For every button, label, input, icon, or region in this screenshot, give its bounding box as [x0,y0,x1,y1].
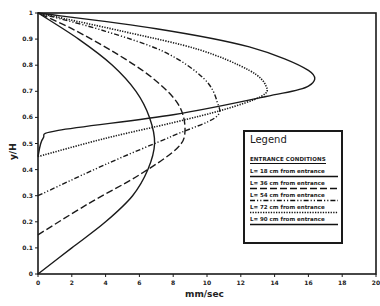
legend-item-5: L= 90 cm from entrance [250,215,337,227]
x-axis-label: mm/sec [185,289,224,299]
x-tick-label: 6 [137,279,141,286]
y-tick-label: 0 [29,270,33,277]
y-tick-label: 0.5 [22,140,33,147]
curve-series-2 [38,13,185,235]
legend-line-sample [250,223,338,226]
x-tick-label: 18 [338,279,346,286]
legend-item-3: L= 54 cm from entrance [250,191,337,203]
y-tick-label: 0.7 [22,87,33,94]
y-tick-label: 0.2 [22,218,33,225]
y-tick-label: 0.4 [22,166,33,173]
y-tick-label: 0.1 [22,244,33,251]
legend-title: Legend [250,134,337,145]
x-tick-label: 2 [70,279,74,286]
legend-line-sample [250,187,338,190]
y-tick-label: 1 [29,9,33,16]
legend-item-4: L= 72 cm from entrance [250,203,337,215]
legend-line-sample [250,199,338,202]
x-tick-label: 4 [104,279,108,286]
legend-items: L= 18 cm from entranceL= 36 cm from entr… [249,167,337,227]
x-tick-label: 12 [237,279,245,286]
x-tick-label: 10 [203,279,211,286]
curve-series-1 [38,13,155,274]
x-tick-label: 0 [36,279,40,286]
y-tick-label: 0.8 [22,61,33,68]
y-tick-label: 0.6 [22,113,33,120]
legend-item-2: L= 36 cm from entrance [250,179,337,191]
legend-item-label: L= 54 cm from entrance [250,192,325,198]
x-tick-label: 16 [304,279,312,286]
y-axis-label: y/H [8,143,18,160]
y-tick-label: 0.3 [22,192,33,199]
legend-item-label: L= 90 cm from entrance [250,216,325,222]
x-tick-label: 14 [270,279,278,286]
legend-item-label: L= 36 cm from entrance [250,180,325,186]
x-tick-label: 8 [171,279,175,286]
x-tick-label: 20 [372,279,380,286]
legend-subtitle: ENTRANCE CONDITIONS [250,156,326,164]
legend-item-1: L= 18 cm from entrance [250,167,337,179]
legend-item-label: L= 72 cm from entrance [250,204,325,210]
legend-item-label: L= 18 cm from entrance [250,168,325,174]
curve-series-3 [38,13,220,196]
y-tick-label: 0.9 [22,35,33,42]
legend-line-sample [250,175,338,178]
legend-line-sample [250,211,338,214]
legend: Legend ENTRANCE CONDITIONS L= 18 cm from… [243,130,343,244]
